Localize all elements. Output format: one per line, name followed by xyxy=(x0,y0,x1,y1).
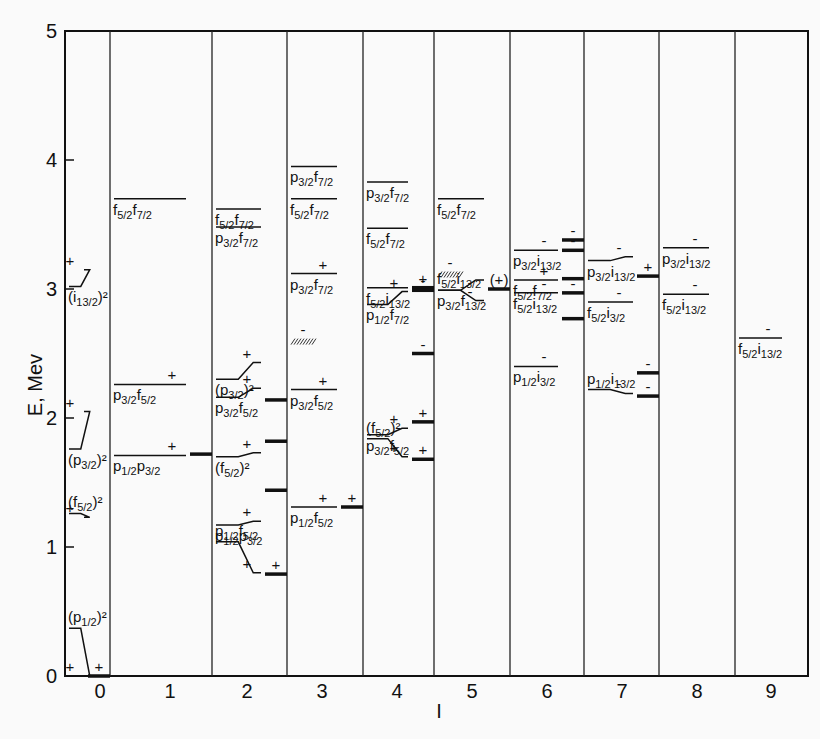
x-tick-label: 1 xyxy=(164,680,175,702)
parity-label: - xyxy=(617,239,622,256)
label-text: p xyxy=(513,368,521,385)
subscript: 3/2 xyxy=(670,258,685,270)
label-text: )² xyxy=(92,493,102,510)
parity-label: + xyxy=(419,404,428,421)
parity-label: + xyxy=(95,658,104,675)
y-axis-ticks: 012345 xyxy=(46,20,74,687)
subscript: 3/2 xyxy=(521,260,536,272)
label-text: p xyxy=(587,263,595,280)
config-label: f5/2f7/2 xyxy=(437,201,476,221)
config-label: f5/2f7/2 xyxy=(113,201,152,221)
config-label: p3/2f7/2 xyxy=(366,184,409,204)
subscript: 7/2 xyxy=(394,192,409,204)
shell-model-level xyxy=(588,257,633,261)
parity-label: - xyxy=(617,284,622,301)
plot-border xyxy=(65,31,808,676)
parity-label: + xyxy=(390,274,399,291)
config-label: p3/2f7/2 xyxy=(290,276,333,296)
subscript: 1/2 xyxy=(121,465,136,477)
subscript: 13/2 xyxy=(614,271,635,283)
config-label: f5/2i13/2 xyxy=(662,296,706,316)
label-text: p xyxy=(366,184,374,201)
subscript: 3/2 xyxy=(121,394,136,406)
x-tick-label: 5 xyxy=(466,680,477,702)
subscript: 5/2 xyxy=(141,394,156,406)
config-label: (p3/2)² xyxy=(68,451,107,471)
label-text: p xyxy=(137,457,145,474)
subscript: 13/2 xyxy=(540,260,561,272)
parity-label: + xyxy=(168,437,177,454)
subscript: 3/2 xyxy=(374,192,389,204)
subscript: 7/2 xyxy=(318,284,333,296)
x-tick-label: 6 xyxy=(541,680,552,702)
parity-label: + xyxy=(66,658,75,675)
config-label: p3/2f7/2 xyxy=(290,168,333,188)
subscript: 7/2 xyxy=(243,237,258,249)
parity-label: + xyxy=(243,345,252,362)
subscript: 5/2 xyxy=(243,407,258,419)
x-axis-ticks: 0123456789 xyxy=(94,680,776,702)
parity-label: + xyxy=(419,441,428,458)
config-label: f5/2f7/2 xyxy=(215,211,254,231)
subscript: 13/2 xyxy=(536,303,557,315)
shell-model-level xyxy=(69,270,90,287)
config-label: f5/2f7/2 xyxy=(366,230,405,250)
label-text: )² xyxy=(98,288,108,305)
label-text: p xyxy=(215,229,223,246)
label-text: p xyxy=(215,399,223,416)
config-label: p3/2f5/2 xyxy=(215,399,258,419)
parity-label: - xyxy=(766,320,771,337)
parity-label: + xyxy=(644,258,653,275)
subscript: 3/2 xyxy=(374,445,389,457)
subscript: 3/2 xyxy=(145,465,160,477)
subscript: 3/2 xyxy=(81,459,96,471)
x-tick-label: 7 xyxy=(616,680,627,702)
subscript: 7/2 xyxy=(390,238,405,250)
parity-label: + xyxy=(319,256,328,273)
subscript: 1/2 xyxy=(595,378,610,390)
config-label: p3/2f5/2 xyxy=(366,437,409,457)
subscript: 5/2 xyxy=(77,501,92,513)
label-text: p xyxy=(73,451,81,468)
subscript: 3/2 xyxy=(445,300,460,312)
x-tick-label: 8 xyxy=(691,680,702,702)
subscript: 5/2 xyxy=(441,278,456,290)
subscript: 5/2 xyxy=(394,445,409,457)
label-text: p xyxy=(366,306,374,323)
energy-levels: ++++++++++++++++-+++++--++-(+)--+-------… xyxy=(66,166,782,676)
subscript: 5/2 xyxy=(591,312,606,324)
config-label: (f5/2)² xyxy=(215,459,249,479)
y-tick-label: 0 xyxy=(46,665,57,687)
subscript: 5/2 xyxy=(742,348,757,360)
config-label: (f5/2)² xyxy=(366,419,400,439)
label-text: )² xyxy=(239,459,249,476)
subscript: 5/2 xyxy=(224,467,239,479)
subscript: 5/2 xyxy=(370,238,385,250)
label-text: p xyxy=(290,392,298,409)
x-tick-label: 2 xyxy=(241,680,252,702)
shell-model-level xyxy=(216,363,261,380)
subscript: 3/2 xyxy=(298,284,313,296)
config-label: p3/2f5/2 xyxy=(113,386,156,406)
subscript: 13/2 xyxy=(685,304,706,316)
subscript: 1/2 xyxy=(298,517,313,529)
plot-frame xyxy=(65,31,808,676)
label-text: )² xyxy=(244,381,254,398)
subscript: 1/2 xyxy=(374,314,389,326)
subscript: 13/2 xyxy=(614,378,635,390)
subscript: 1/2 xyxy=(81,616,96,628)
subscript: 5/2 xyxy=(666,304,681,316)
label-text: p xyxy=(215,522,223,539)
subscript: 5/2 xyxy=(517,290,532,302)
parity-label: + xyxy=(319,372,328,389)
subscript: 3/2 xyxy=(595,271,610,283)
label-text: )² xyxy=(97,608,107,625)
parity-label: - xyxy=(542,232,547,249)
subscript: 7/2 xyxy=(394,314,409,326)
configuration-labels: (i13/2)²(p3/2)²(f5/2)²(p1/2)²f5/2f7/2p3/… xyxy=(68,168,782,628)
config-label: f5/2i13/2 xyxy=(738,340,782,360)
unresolved-band xyxy=(291,339,316,345)
parity-label: + xyxy=(66,394,75,411)
x-axis-label: I xyxy=(436,700,442,722)
parity-label: - xyxy=(693,276,698,293)
